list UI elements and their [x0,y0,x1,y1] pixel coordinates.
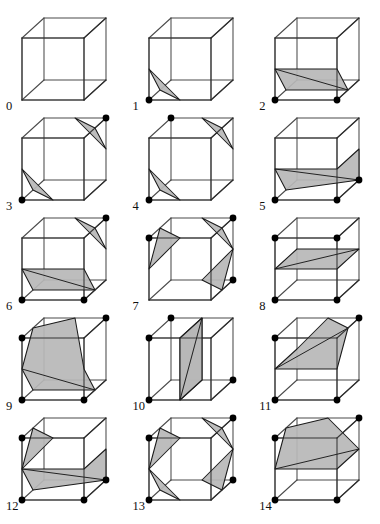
vertex-marker [272,97,279,104]
cube-wireframe [22,18,106,100]
case-cell-6: 6 [0,214,127,314]
vertex-marker [81,397,88,404]
vertex-marker [103,115,110,122]
case-number-label: 6 [6,300,12,313]
cube-diagram-1 [127,14,254,114]
vertex-marker [145,497,152,504]
isosurface [275,249,359,269]
case-number-label: 12 [6,500,19,513]
surface-polygon [275,418,359,469]
vertex-marker [81,297,88,304]
case-cell-11: 11 [253,314,380,414]
case-number-label: 7 [133,300,139,313]
isosurface [149,118,233,200]
vertex-marker [19,197,26,204]
cube-diagram-9 [0,314,127,414]
case-cell-7: 7 [127,214,254,314]
vertex-marker [145,397,152,404]
case-number-label: 14 [259,500,272,513]
vertex-marker [334,297,341,304]
isosurface [22,428,106,490]
vertex-marker [145,197,152,204]
case-cell-1: 1 [127,14,254,114]
isosurface [180,318,202,400]
vertex-marker [145,435,152,442]
case-number-label: 0 [6,100,12,113]
vertex-marker [334,197,341,204]
vertex-marker [167,115,174,122]
vertex-marker [19,297,26,304]
case-number-label: 1 [133,100,139,113]
surface-polygon [275,149,359,190]
case-cell-10: 10 [127,314,254,414]
case-number-label: 9 [6,400,12,413]
vertex-marker [334,97,341,104]
case-cell-5: 5 [253,114,380,214]
isosurface [275,418,359,469]
vertex-marker [145,235,152,242]
isosurface [275,149,359,190]
cases-grid: 01234567891011121314 [0,0,380,504]
vertex-marker [167,315,174,322]
cube-diagram-6 [0,214,127,314]
vertex-marker [272,235,279,242]
cube-diagram-5 [253,114,380,214]
case-number-label: 11 [259,400,271,413]
cube-diagram-8 [253,214,380,314]
marked-vertices [145,97,152,104]
vertex-marker [19,435,26,442]
cube-diagram-3 [0,114,127,214]
cube-wireframe-front [22,18,106,100]
case-cell-9: 9 [0,314,127,414]
cube-diagram-7 [127,214,254,314]
vertex-marker [272,435,279,442]
vertex-marker [272,397,279,404]
vertex-marker [19,335,26,342]
vertex-marker [272,497,279,504]
cube-diagram-14 [253,414,380,514]
vertex-marker [272,297,279,304]
vertex-marker [334,397,341,404]
vertex-marker [19,497,26,504]
vertex-marker [272,335,279,342]
case-number-label: 13 [133,500,146,513]
cube-diagram-10 [127,314,254,414]
cube-diagram-13 [127,414,254,514]
vertex-marker [81,497,88,504]
vertex-marker [272,197,279,204]
vertex-marker [356,177,363,184]
case-cell-4: 4 [127,114,254,214]
case-number-label: 2 [259,100,265,113]
case-cell-0: 0 [0,14,127,114]
case-number-label: 3 [6,200,12,213]
vertex-marker [229,215,236,222]
vertex-marker [145,335,152,342]
vertex-marker [229,415,236,422]
case-cell-8: 8 [253,214,380,314]
vertex-marker [19,397,26,404]
vertex-marker [103,315,110,322]
vertex-marker [145,97,152,104]
vertex-marker [356,415,363,422]
marching-cubes-figure: 01234567891011121314 [0,0,380,524]
case-cell-2: 2 [253,14,380,114]
vertex-marker [334,235,341,242]
case-number-label: 10 [133,400,146,413]
vertex-marker [103,477,110,484]
case-number-label: 8 [259,300,265,313]
vertex-marker [229,377,236,384]
case-cell-12: 12 [0,414,127,514]
vertex-marker [103,215,110,222]
case-cell-3: 3 [0,114,127,214]
case-number-label: 5 [259,200,265,213]
cube-diagram-12 [0,414,127,514]
cube-diagram-4 [127,114,254,214]
cube-diagram-0 [0,14,127,114]
vertex-marker [229,477,236,484]
isosurface [149,418,233,500]
vertex-marker [229,277,236,284]
cube-diagram-11 [253,314,380,414]
case-cell-14: 14 [253,414,380,514]
cube-diagram-2 [253,14,380,114]
vertex-marker [356,315,363,322]
